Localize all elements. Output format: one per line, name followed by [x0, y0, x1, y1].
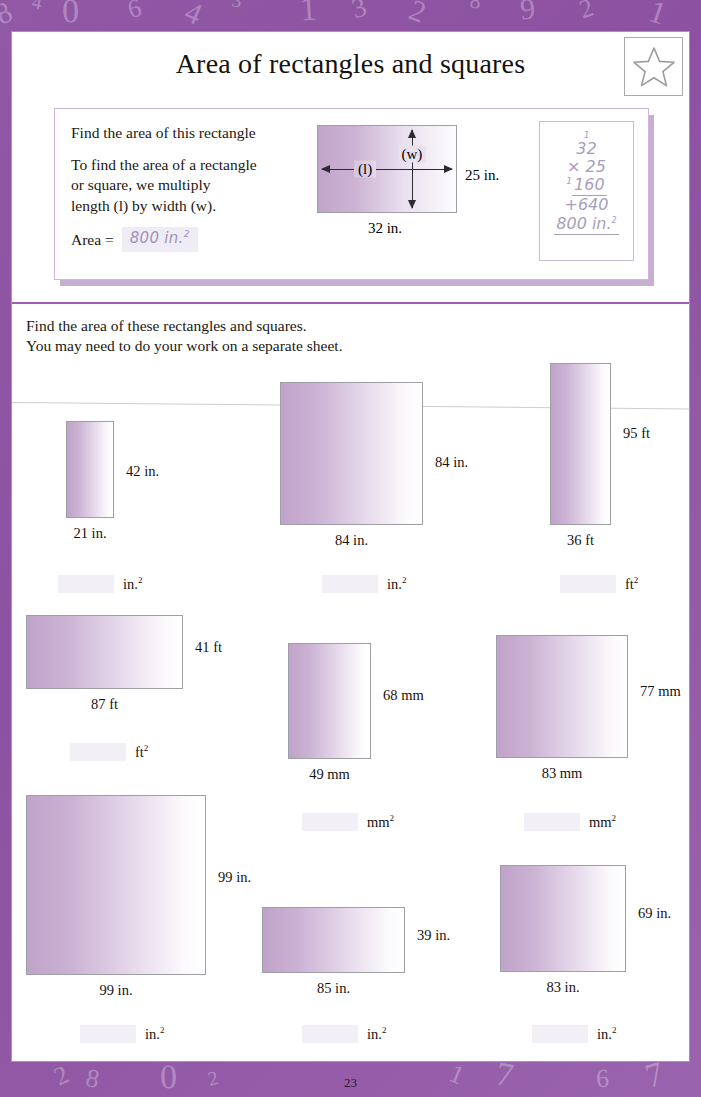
calc-total-exponent: 2	[612, 215, 617, 224]
problem-2-shape	[280, 382, 423, 525]
problem-8-unit-exponent: 2	[382, 1025, 387, 1035]
decorative-number: 9	[519, 0, 537, 25]
example-calculation: 1 32 × 25 1160 +640 800 in.2	[539, 121, 634, 261]
example-rule-line-1: To find the area of a rectangle	[71, 156, 257, 173]
area-label: Area =	[71, 230, 114, 251]
example-area-answer: 800 in.2	[122, 227, 198, 252]
problem-9-shape	[500, 865, 626, 972]
header: Area of rectangles and squares	[12, 32, 689, 100]
problem-1-unit-label: in.2	[123, 575, 142, 593]
problem-4-unit-label: ft2	[135, 743, 148, 761]
problem-7-height-label: 99 in.	[218, 869, 251, 886]
problem-8-answer-input[interactable]	[302, 1025, 358, 1043]
problem-7-shape	[26, 795, 206, 975]
problem-5-answer-input[interactable]	[302, 813, 358, 831]
decorative-number: 1	[299, 0, 318, 26]
problem-5-height-label: 68 mm	[383, 687, 424, 704]
problem-2-answer-row: in.2	[322, 575, 406, 593]
decorative-number: 3	[348, 0, 369, 23]
problem-6: 77 mm83 mm	[496, 635, 628, 758]
arrow-down-icon	[408, 200, 416, 209]
instructions: Find the area of these rectangles and sq…	[12, 304, 689, 357]
example-area-row: Area = 800 in.2	[71, 227, 313, 252]
example-text: Find the area of this rectangle To find …	[55, 109, 313, 252]
problem-4-unit-exponent: 2	[144, 743, 149, 753]
problem-7-answer-input[interactable]	[80, 1025, 136, 1043]
example-rectangle: (l) (w)	[317, 125, 457, 213]
problem-7-unit-exponent: 2	[160, 1025, 165, 1035]
example-area-value: 800 in.	[130, 229, 184, 247]
decorative-number: 4	[30, 0, 44, 13]
decorative-number: 6	[125, 0, 144, 23]
example-area-exponent: 2	[184, 229, 190, 239]
problem-5-shape	[288, 643, 371, 759]
problem-6-unit-text: mm	[589, 814, 612, 830]
problem-4-height-label: 41 ft	[195, 639, 222, 656]
problem-3-unit-exponent: 2	[634, 575, 639, 585]
decorative-number: 1	[645, 0, 671, 30]
decorative-number: 8	[0, 0, 17, 30]
problem-3-unit-label: ft2	[625, 575, 638, 593]
problem-9-width-label: 83 in.	[500, 979, 626, 996]
decorative-number: 8	[469, 0, 483, 13]
problem-2-height-label: 84 in.	[435, 454, 468, 471]
problem-6-width-label: 83 mm	[496, 765, 628, 782]
problem-7-unit-label: in.2	[145, 1025, 164, 1043]
problem-9: 69 in.83 in.	[500, 865, 626, 972]
exercise-grid: 42 in.21 in.in.284 in.84 in.in.295 ft36 …	[12, 357, 689, 365]
example-panel: Find the area of this rectangle To find …	[54, 108, 649, 280]
calc-partial-1: 160	[572, 176, 607, 196]
example-rule-line-2: or square, we multiply	[71, 176, 210, 193]
problem-4: 41 ft87 ft	[26, 615, 183, 689]
problem-7-unit-text: in.	[145, 1026, 160, 1042]
example-side-label: 25 in.	[465, 167, 499, 184]
problem-5: 68 mm49 mm	[288, 643, 371, 759]
problem-4-answer-input[interactable]	[70, 743, 126, 761]
problem-8-answer-row: in.2	[302, 1025, 386, 1043]
problem-1-unit-exponent: 2	[138, 575, 143, 585]
problem-1-answer-input[interactable]	[58, 575, 114, 593]
problem-2: 84 in.84 in.	[280, 382, 423, 525]
decorative-number: 3	[230, 0, 243, 11]
problem-9-height-label: 69 in.	[638, 905, 671, 922]
problem-7-width-label: 99 in.	[26, 982, 206, 999]
instruction-line-1: Find the area of these rectangles and sq…	[26, 316, 689, 336]
problem-3-answer-input[interactable]	[560, 575, 616, 593]
example-rule: To find the area of a rectangle or squar…	[71, 155, 313, 217]
problem-8-unit-text: in.	[367, 1026, 382, 1042]
decorative-number: 2	[405, 0, 430, 28]
problem-3-shape	[550, 363, 611, 525]
worksheet-sheet: Area of rectangles and squares Find the …	[11, 31, 690, 1062]
problem-2-unit-label: in.2	[387, 575, 406, 593]
problem-9-answer-row: in.2	[532, 1025, 616, 1043]
problem-3-answer-row: ft2	[560, 575, 638, 593]
problem-8: 39 in.85 in.	[262, 907, 405, 973]
problem-4-shape	[26, 615, 183, 689]
problem-5-width-label: 49 mm	[288, 766, 371, 783]
problem-6-answer-input[interactable]	[524, 813, 580, 831]
example-rule-line-3: length (l) by width (w).	[71, 197, 216, 214]
problem-1-width-label: 21 in.	[66, 525, 114, 542]
problem-9-unit-label: in.2	[597, 1025, 616, 1043]
star-badge	[624, 37, 683, 96]
decorative-number: 0	[62, 0, 80, 28]
problem-8-height-label: 39 in.	[417, 927, 450, 944]
problem-8-unit-label: in.2	[367, 1025, 386, 1043]
problem-4-width-label: 87 ft	[26, 696, 183, 713]
problem-3-height-label: 95 ft	[623, 425, 650, 442]
calc-partial-1-row: 1160	[540, 176, 633, 196]
arrow-left-icon	[321, 165, 330, 173]
problem-5-unit-text: mm	[367, 814, 390, 830]
problem-1-height-label: 42 in.	[126, 463, 159, 480]
problem-4-answer-row: ft2	[70, 743, 148, 761]
calc-multiplicand: 32	[540, 140, 633, 158]
problem-2-unit-text: in.	[387, 576, 402, 592]
problem-9-answer-input[interactable]	[532, 1025, 588, 1043]
problem-7-answer-row: in.2	[80, 1025, 164, 1043]
problem-8-width-label: 85 in.	[262, 980, 405, 997]
problem-3: 95 ft36 ft	[550, 363, 611, 525]
problem-9-unit-exponent: 2	[612, 1025, 617, 1035]
problem-2-answer-input[interactable]	[322, 575, 378, 593]
problem-4-unit-text: ft	[135, 744, 144, 760]
page-title: Area of rectangles and squares	[12, 48, 689, 80]
